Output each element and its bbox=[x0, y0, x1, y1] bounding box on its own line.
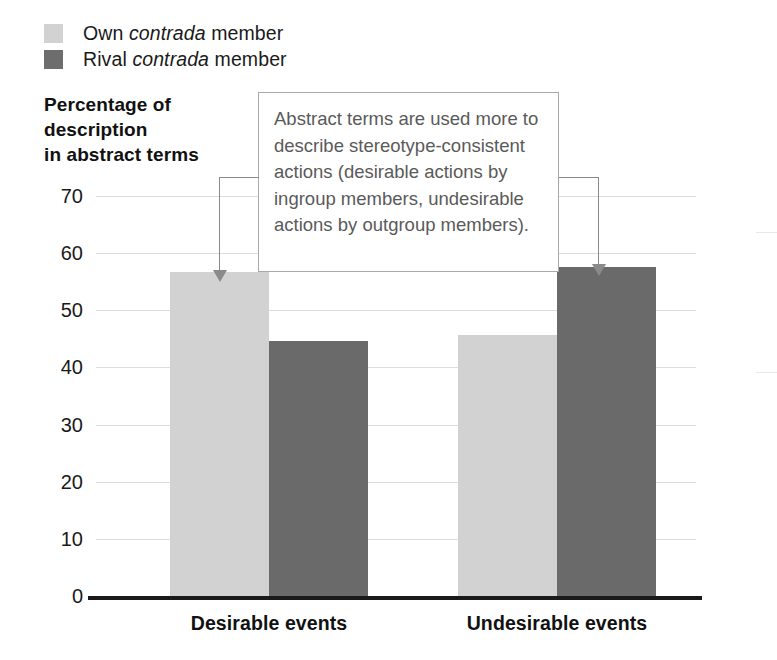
bar-desirable-events-rival bbox=[269, 341, 368, 598]
bar-undesirable-events-own bbox=[458, 335, 557, 598]
y-tick-label-30: 30 bbox=[61, 413, 83, 436]
annotation-connector-left-vertical bbox=[219, 177, 220, 271]
legend-swatch-own-contrada-member bbox=[44, 24, 63, 43]
category-label-desirable-events: Desirable events bbox=[191, 612, 348, 635]
annotation-callout: Abstract terms are used more to describe… bbox=[258, 92, 559, 272]
y-tick-label-60: 60 bbox=[61, 242, 83, 265]
y-axis-title: Percentage of description in abstract te… bbox=[44, 92, 199, 167]
y-axis-title-line-2: description bbox=[44, 117, 199, 142]
y-axis-title-line-3: in abstract terms bbox=[44, 142, 199, 167]
scan-artifact-upper bbox=[756, 232, 777, 233]
bar-desirable-events-own bbox=[170, 272, 269, 598]
y-tick-label-40: 40 bbox=[61, 356, 83, 379]
y-tick-label-0: 0 bbox=[72, 585, 83, 608]
y-axis-title-line-1: Percentage of bbox=[44, 92, 199, 117]
bar-undesirable-events-rival bbox=[557, 267, 656, 598]
bar-chart-figure: Own contrada member Rival contrada membe… bbox=[0, 0, 777, 660]
y-tick-label-50: 50 bbox=[61, 299, 83, 322]
y-tick-label-70: 70 bbox=[61, 185, 83, 208]
annotation-arrow-right bbox=[592, 264, 606, 276]
annotation-text: Abstract terms are used more to describe… bbox=[259, 93, 558, 239]
category-label-undesirable-events: Undesirable events bbox=[467, 612, 648, 635]
chart-legend: Own contrada member Rival contrada membe… bbox=[44, 20, 464, 72]
scan-artifact-lower bbox=[756, 372, 777, 373]
y-tick-label-20: 20 bbox=[61, 470, 83, 493]
legend-label-own-contrada-member: Own contrada member bbox=[83, 22, 283, 45]
legend-item-rival-contrada-member: Rival contrada member bbox=[44, 46, 464, 72]
legend-label-rival-contrada-member: Rival contrada member bbox=[83, 48, 287, 71]
legend-item-own-contrada-member: Own contrada member bbox=[44, 20, 464, 46]
annotation-connector-right-vertical bbox=[598, 177, 599, 265]
x-axis-line bbox=[88, 596, 702, 600]
y-tick-label-10: 10 bbox=[61, 527, 83, 550]
annotation-connector-right-horizontal bbox=[559, 177, 599, 178]
annotation-arrow-left bbox=[213, 270, 227, 282]
annotation-connector-left-horizontal bbox=[219, 177, 259, 178]
legend-swatch-rival-contrada-member bbox=[44, 50, 63, 69]
